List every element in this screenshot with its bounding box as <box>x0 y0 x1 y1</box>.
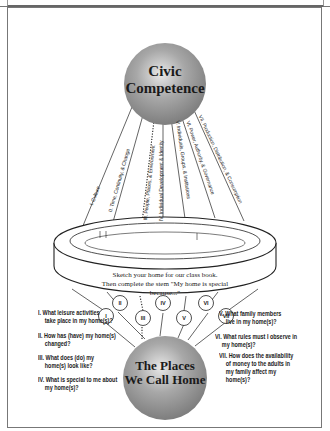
question-V: V. What family members live in my home(s… <box>219 310 281 326</box>
question-number: IV. <box>38 376 44 383</box>
question-line: How does the availability <box>229 352 294 359</box>
question-number: V. <box>219 310 224 317</box>
places-label-line2: We Call Home <box>120 373 210 387</box>
question-line: What is special to me about <box>46 376 118 383</box>
question-line: my home(s)? <box>38 384 117 392</box>
question-number: VI. <box>215 333 222 340</box>
question-VI: VI. What rules must I observe in my home… <box>215 333 297 349</box>
civic-label-line2: Competence <box>125 80 205 97</box>
question-line: What rules must I observe in <box>223 333 297 340</box>
places-we-call-home-label: The Places We Call Home <box>120 359 210 388</box>
question-line: live in my home(s)? <box>219 318 281 326</box>
question-line: take place in my home(s)? <box>38 317 113 325</box>
question-line: my family affect my <box>219 368 293 376</box>
theme-label-IV: IV. Individual Development & Identity <box>158 140 164 221</box>
question-line: changed? <box>38 340 116 348</box>
question-number: I. <box>38 309 41 316</box>
question-number: II. <box>38 332 43 339</box>
question-II: II. How has (have) my home(s) changed? <box>38 332 116 348</box>
ring-prompt-line2: Then complete the stem "My home is speci… <box>88 280 242 289</box>
node-label-III: III <box>135 310 151 326</box>
question-number: III. <box>38 354 44 361</box>
question-line: What family members <box>225 310 281 317</box>
node-label-V: V <box>176 310 192 326</box>
question-line: What leisure activities <box>43 309 100 316</box>
question-line: my home(s)? <box>215 341 297 349</box>
node-label-VI: VI <box>198 295 214 311</box>
question-line: home(s) look like? <box>38 362 94 370</box>
question-line: home(s)? <box>219 376 293 384</box>
ring-prompt-line1: Sketch your home for our class book. <box>88 271 242 280</box>
question-line: What does (do) my <box>46 354 95 361</box>
ray-II <box>113 115 143 222</box>
places-label-line1: The Places <box>120 359 210 373</box>
node-label-IV: IV <box>155 295 171 311</box>
civic-label-line1: Civic <box>125 63 205 80</box>
question-line: How has (have) my home(s) <box>44 332 116 339</box>
question-number: VII. <box>219 352 227 359</box>
node-label-II: II <box>112 295 128 311</box>
civic-competence-label: Civic Competence <box>125 63 205 96</box>
question-III: III. What does (do) my home(s) look like… <box>38 354 94 370</box>
question-IV: IV. What is special to me about my home(… <box>38 376 117 392</box>
question-I: I. What leisure activities take place in… <box>38 309 113 325</box>
question-line: of money to the adults in <box>219 360 293 368</box>
question-VII: VII. How does the availability of money … <box>219 352 293 384</box>
